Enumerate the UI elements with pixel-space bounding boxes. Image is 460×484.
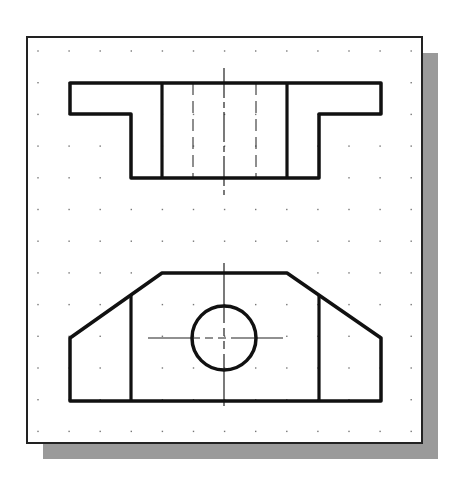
- grid-dot: [68, 145, 69, 146]
- grid-dot: [286, 431, 287, 432]
- grid-dot: [68, 304, 69, 305]
- grid-dot: [131, 241, 132, 242]
- grid-dot: [37, 431, 38, 432]
- grid-dot: [379, 209, 380, 210]
- grid-dot: [100, 272, 101, 273]
- grid-dot: [37, 50, 38, 51]
- grid-dot: [348, 209, 349, 210]
- grid-dot: [348, 431, 349, 432]
- grid-dot: [255, 241, 256, 242]
- grid-dot: [37, 304, 38, 305]
- grid-dot: [348, 304, 349, 305]
- grid-dot: [348, 50, 349, 51]
- grid-dot: [255, 50, 256, 51]
- grid-dot: [286, 50, 287, 51]
- grid-dot: [68, 209, 69, 210]
- grid-dot: [37, 209, 38, 210]
- grid-dot: [68, 431, 69, 432]
- grid-dot: [317, 209, 318, 210]
- grid-dot: [348, 177, 349, 178]
- grid-dot: [379, 241, 380, 242]
- grid-dot: [37, 272, 38, 273]
- grid-dot: [317, 50, 318, 51]
- grid-dot: [224, 209, 225, 210]
- grid-dot: [348, 272, 349, 273]
- grid-dot: [100, 209, 101, 210]
- grid-dot: [411, 114, 412, 115]
- grid-dot: [379, 50, 380, 51]
- grid-dot: [411, 431, 412, 432]
- grid-dot: [379, 177, 380, 178]
- grid-dot: [68, 272, 69, 273]
- grid-dot: [286, 367, 287, 368]
- grid-dot: [162, 336, 163, 337]
- grid-dot: [162, 209, 163, 210]
- grid-dot: [131, 50, 132, 51]
- grid-dot: [100, 431, 101, 432]
- grid-dot: [68, 50, 69, 51]
- grid-dot: [286, 304, 287, 305]
- grid-dot: [162, 431, 163, 432]
- grid-dot: [100, 241, 101, 242]
- grid-dot: [411, 82, 412, 83]
- grid-dot: [255, 304, 256, 305]
- grid-dot: [317, 272, 318, 273]
- grid-dot: [348, 241, 349, 242]
- grid-dot: [411, 272, 412, 273]
- grid-dot: [100, 50, 101, 51]
- grid-dot: [37, 145, 38, 146]
- grid-dot: [411, 304, 412, 305]
- grid-dot: [37, 399, 38, 400]
- grid-dot: [224, 431, 225, 432]
- grid-dot: [37, 336, 38, 337]
- grid-dot: [411, 399, 412, 400]
- grid-dot: [100, 336, 101, 337]
- grid-dot: [193, 304, 194, 305]
- grid-dot: [411, 241, 412, 242]
- grid-dot: [193, 50, 194, 51]
- grid-dot: [286, 209, 287, 210]
- grid-dot: [100, 367, 101, 368]
- grid-dot: [255, 367, 256, 368]
- grid-dot: [286, 336, 287, 337]
- grid-dot: [162, 367, 163, 368]
- grid-dot: [411, 209, 412, 210]
- grid-dot: [224, 241, 225, 242]
- grid-dot: [193, 241, 194, 242]
- grid-dot: [411, 177, 412, 178]
- grid-dot: [100, 145, 101, 146]
- grid-dot: [379, 272, 380, 273]
- grid-dot: [37, 367, 38, 368]
- grid-dot: [131, 209, 132, 210]
- grid-dot: [379, 431, 380, 432]
- grid-dot: [162, 241, 163, 242]
- grid-dot: [317, 241, 318, 242]
- grid-dot: [286, 241, 287, 242]
- grid-dot: [37, 177, 38, 178]
- grid-dot: [411, 336, 412, 337]
- grid-dot: [68, 241, 69, 242]
- grid-dot: [162, 50, 163, 51]
- grid-dot: [255, 431, 256, 432]
- grid-dot: [100, 304, 101, 305]
- grid-dot: [162, 304, 163, 305]
- grid-dot: [379, 304, 380, 305]
- grid-dot: [131, 431, 132, 432]
- grid-dot: [68, 177, 69, 178]
- grid-dot: [37, 241, 38, 242]
- grid-dot: [411, 50, 412, 51]
- grid-dot: [193, 367, 194, 368]
- grid-dot: [193, 114, 194, 115]
- grid-dot: [348, 145, 349, 146]
- grid-dot: [411, 367, 412, 368]
- grid-dot: [193, 209, 194, 210]
- grid-dot: [37, 82, 38, 83]
- grid-dot: [131, 272, 132, 273]
- grid-dot: [348, 367, 349, 368]
- grid-dot: [193, 431, 194, 432]
- grid-dot: [224, 50, 225, 51]
- grid-dot: [100, 177, 101, 178]
- grid-dot: [348, 336, 349, 337]
- grid-dot: [37, 114, 38, 115]
- grid-dot: [255, 209, 256, 210]
